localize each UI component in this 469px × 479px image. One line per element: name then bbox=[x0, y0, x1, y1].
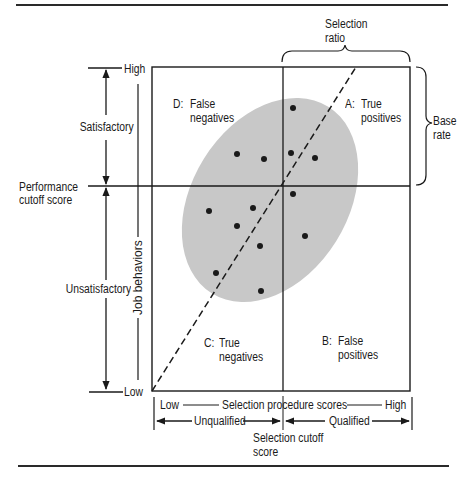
qualified-label: Qualified bbox=[329, 414, 370, 428]
y-high-label: High bbox=[124, 62, 145, 76]
quadrant-c-line2: negatives bbox=[219, 350, 263, 364]
selection-cutoff-label-line1: Selection cutoff bbox=[253, 431, 323, 445]
base-rate-brace bbox=[416, 67, 432, 185]
quadrant-b-line1: False bbox=[338, 334, 363, 348]
quadrant-d-line2: negatives bbox=[190, 111, 234, 125]
selection-ratio-label-line2: ratio bbox=[325, 31, 345, 45]
quadrant-b-letter: B: bbox=[322, 334, 332, 348]
quadrant-d-line1: False bbox=[190, 97, 215, 111]
x-low-label: Low bbox=[160, 398, 179, 412]
quadrant-b-line2: positives bbox=[338, 348, 378, 362]
selection-ratio-label-line1: Selection bbox=[325, 17, 367, 31]
unqualified-label: Unqualified bbox=[194, 414, 246, 428]
performance-cutoff-label-line2: cutoff score bbox=[19, 193, 72, 207]
performance-cutoff-label-line1: Performance bbox=[19, 180, 78, 194]
y-low-label: Low bbox=[124, 385, 143, 399]
quadrant-a-letter: A: bbox=[345, 97, 355, 111]
quadrant-a-line2: positives bbox=[361, 111, 401, 125]
selection-ratio-brace bbox=[282, 45, 410, 62]
unsatisfactory-label: Unsatisfactory bbox=[64, 282, 133, 296]
quadrant-c-letter: C: bbox=[204, 336, 214, 350]
quadrant-a-line1: True bbox=[361, 97, 382, 111]
quadrant-d-letter: D: bbox=[173, 97, 183, 111]
quadrant-c-line1: True bbox=[219, 336, 240, 350]
selection-cutoff-label-line2: score bbox=[253, 445, 278, 459]
satisfactory-label: Satisfactory bbox=[78, 120, 135, 134]
base-rate-label-line2: rate bbox=[433, 128, 451, 142]
base-rate-label-line1: Base bbox=[433, 114, 457, 128]
x-high-label: High bbox=[385, 398, 406, 412]
x-axis-label: Selection procedure scores bbox=[222, 398, 347, 412]
job-behaviors-label: Job behaviors bbox=[131, 237, 145, 318]
